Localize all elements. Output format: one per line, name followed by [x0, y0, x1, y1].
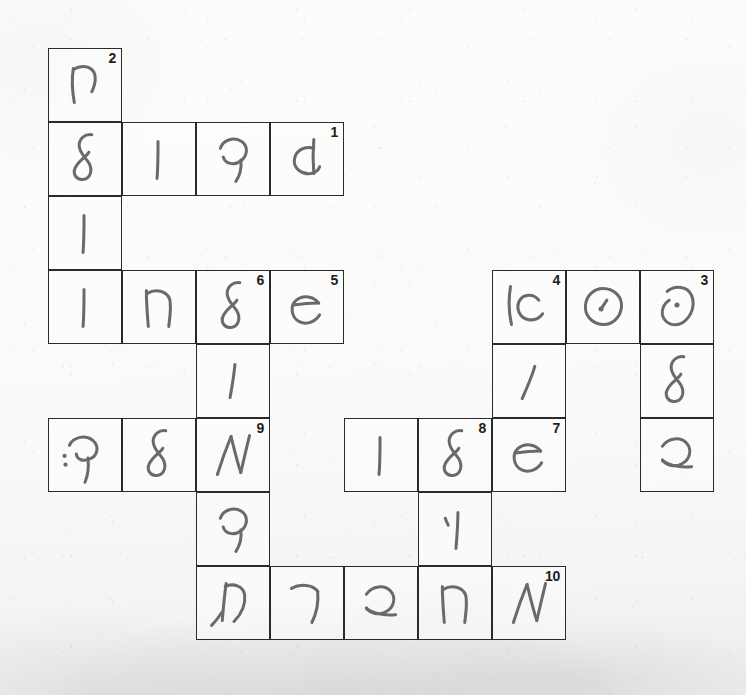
- crossword-cell-r0c0[interactable]: 2: [48, 48, 122, 122]
- crossword-cell-r7c2[interactable]: [196, 566, 270, 640]
- clue-number: 6: [257, 273, 265, 287]
- crossword-cell-r1c0[interactable]: [48, 122, 122, 196]
- handwritten-letter-vav-dot-icon: [419, 493, 491, 565]
- crossword-cell-r1c3[interactable]: 1: [270, 122, 344, 196]
- crossword-cell-r3c6[interactable]: 4: [492, 270, 566, 344]
- crossword-cell-r5c1[interactable]: [122, 418, 196, 492]
- crossword-cell-r7c3[interactable]: [270, 566, 344, 640]
- handwritten-letter-vav-like-icon: [123, 123, 195, 195]
- handwritten-letter-hey-like-icon: [123, 271, 195, 343]
- crossword-cell-r3c2[interactable]: 6: [196, 270, 270, 344]
- clue-number: 3: [701, 273, 709, 287]
- crossword-cell-r3c7[interactable]: [566, 270, 640, 344]
- clue-number: 8: [479, 421, 487, 435]
- crossword-cell-r7c5[interactable]: [418, 566, 492, 640]
- crossword-cell-r4c6[interactable]: [492, 344, 566, 418]
- handwritten-letter-vav-slant-icon: [493, 345, 565, 417]
- clue-number: 1: [331, 125, 339, 139]
- crossword-cell-r6c5[interactable]: [418, 492, 492, 566]
- handwritten-letter-vav-like-icon: [49, 271, 121, 343]
- crossword-cell-r1c2[interactable]: [196, 122, 270, 196]
- handwritten-letter-samekh-like-icon: [567, 271, 639, 343]
- crossword-cell-r5c2[interactable]: 9: [196, 418, 270, 492]
- crossword-cell-r7c4[interactable]: [344, 566, 418, 640]
- clue-number: 10: [545, 569, 560, 583]
- handwritten-letter-fey-like-icon: [197, 493, 269, 565]
- crossword-cell-r2c0[interactable]: [48, 196, 122, 270]
- crossword-cell-r5c0[interactable]: [48, 418, 122, 492]
- clue-number: 5: [331, 273, 339, 287]
- handwritten-letter-resh-like-icon: [271, 567, 343, 639]
- handwritten-letter-yod-like-icon: [197, 345, 269, 417]
- handwritten-letter-vav-like-icon: [49, 197, 121, 269]
- crossword-cell-r3c3[interactable]: 5: [270, 270, 344, 344]
- crossword-cell-r6c2[interactable]: [196, 492, 270, 566]
- handwritten-letter-hey-like-icon: [419, 567, 491, 639]
- crossword-scan-page: 21654398710: [0, 0, 746, 695]
- handwritten-letter-lamed-like-icon: [641, 345, 713, 417]
- crossword-cell-r3c8[interactable]: 3: [640, 270, 714, 344]
- crossword-cell-r4c2[interactable]: [196, 344, 270, 418]
- handwritten-letter-fey-like-icon: [197, 123, 269, 195]
- crossword-cell-r7c6[interactable]: 10: [492, 566, 566, 640]
- handwritten-letter-tav-like-icon: [197, 567, 269, 639]
- crossword-cell-r3c0[interactable]: [48, 270, 122, 344]
- handwritten-letter-lamed-like-icon: [49, 123, 121, 195]
- clue-number: 9: [257, 421, 265, 435]
- handwritten-letter-bet-like-icon: [345, 567, 417, 639]
- crossword-cell-r5c5[interactable]: 8: [418, 418, 492, 492]
- handwritten-letter-lamed-like-icon: [123, 419, 195, 491]
- handwritten-letter-kuf-like-icon: [49, 419, 121, 491]
- clue-number: 4: [553, 273, 561, 287]
- handwritten-letter-bet-like-icon: [641, 419, 713, 491]
- crossword-cell-r3c1[interactable]: [122, 270, 196, 344]
- handwritten-letter-vav-like-icon: [345, 419, 417, 491]
- crossword-cell-r5c4[interactable]: [344, 418, 418, 492]
- clue-number: 2: [109, 51, 117, 65]
- crossword-grid: 21654398710: [0, 0, 746, 695]
- clue-number: 7: [553, 421, 561, 435]
- crossword-cell-r5c6[interactable]: 7: [492, 418, 566, 492]
- crossword-cell-r1c1[interactable]: [122, 122, 196, 196]
- crossword-cell-r5c8[interactable]: [640, 418, 714, 492]
- crossword-cell-r4c8[interactable]: [640, 344, 714, 418]
